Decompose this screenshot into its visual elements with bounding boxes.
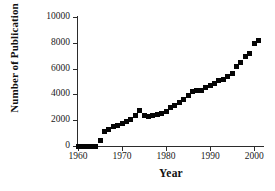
x-axis-line [77,146,264,147]
data-point [186,93,191,98]
x-tick-label: 1990 [193,151,227,161]
plot-area [78,17,263,146]
data-point [238,60,243,65]
x-tick-label: 1970 [105,151,139,161]
data-point [230,71,235,76]
data-point [133,113,138,118]
publication-trend-chart: 0200040006000800010000 19601970198019902… [0,0,275,191]
y-tick-mark [73,69,77,70]
x-tick-label: 2000 [237,151,271,161]
y-tick-label-text: 0 [0,141,70,150]
y-tick-label: 0 [0,141,70,150]
y-tick-mark [73,17,77,18]
data-point [247,51,252,56]
y-axis-title: Number of Publication [8,0,20,118]
y-tick-mark [73,94,77,95]
x-tick-label: 1960 [61,151,95,161]
data-point [256,38,261,43]
x-tick-label: 1980 [149,151,183,161]
x-axis-title: Year [78,167,264,179]
data-point [98,138,103,143]
data-point [93,144,98,149]
y-tick-mark [73,120,77,121]
y-tick-mark [73,43,77,44]
